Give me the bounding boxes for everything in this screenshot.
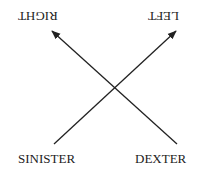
label-left: LEFT (148, 10, 179, 23)
label-dexter: DEXTER (135, 152, 186, 165)
label-right: RIGHT (18, 10, 58, 23)
label-sinister: SINISTER (18, 152, 75, 165)
